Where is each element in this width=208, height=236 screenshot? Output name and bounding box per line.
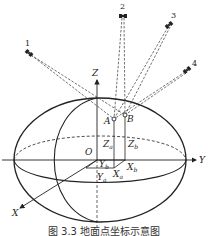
satellite-icon bbox=[119, 14, 127, 18]
x-axis-label: X bbox=[11, 208, 19, 218]
equator-back bbox=[14, 136, 186, 160]
point-a-label: A bbox=[103, 116, 111, 126]
satellite-2 bbox=[119, 14, 127, 18]
za-label: Za bbox=[102, 139, 113, 150]
ya-label: Ya bbox=[97, 172, 107, 183]
z-axis-label: Z bbox=[91, 68, 99, 78]
x-axis bbox=[20, 160, 97, 208]
figure-caption: 图 3.3 地面点坐标示意图 bbox=[0, 226, 208, 236]
xb-label: Xb bbox=[126, 162, 137, 173]
satellite-3 bbox=[165, 21, 174, 29]
zb-label: Zb bbox=[127, 139, 138, 150]
y-axis-label: Y bbox=[199, 155, 206, 165]
satellite-3-label: 3 bbox=[171, 11, 176, 20]
yb-label: Yb bbox=[99, 159, 109, 170]
xa-label: Xa bbox=[112, 169, 123, 180]
satellite-2-label: 2 bbox=[120, 2, 125, 11]
signal-lines bbox=[31, 18, 186, 119]
point-a-marker bbox=[112, 117, 116, 121]
satellite-icon bbox=[165, 21, 174, 29]
satellite-1-label: 1 bbox=[25, 39, 30, 48]
point-b-label: B bbox=[126, 114, 134, 124]
satellite-4-label: 4 bbox=[192, 59, 197, 68]
geodetic-coordinate-diagram: Z Y X O A B Za Zb Yb Xb Ya Xa 1 2 3 4 bbox=[0, 0, 208, 236]
origin-label: O bbox=[85, 147, 93, 157]
